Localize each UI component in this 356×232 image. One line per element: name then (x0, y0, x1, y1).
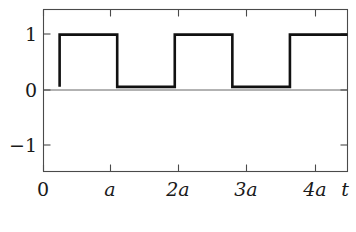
x-axis-label: t (341, 178, 349, 200)
x-tick-label-4a: 4a (302, 178, 326, 200)
square-wave-plot: 1 0 −1 0 a 2a 3a 4a t (0, 0, 356, 232)
y-axis-ticks-mirror (341, 34, 348, 145)
y-tick-label-1: 1 (25, 23, 37, 45)
y-tick-label-minus-1: −1 (9, 134, 37, 156)
y-axis-ticks (44, 34, 51, 145)
x-tick-label-0: 0 (37, 178, 49, 200)
x-tick-label-a: a (104, 178, 115, 200)
y-tick-label-0: 0 (25, 79, 37, 101)
square-wave-curve (60, 35, 348, 87)
figure-container: 1 0 −1 0 a 2a 3a 4a t (0, 0, 356, 232)
x-axis-ticks-mirror (44, 10, 316, 17)
x-tick-label-2a: 2a (165, 178, 189, 200)
x-tick-label-3a: 3a (234, 178, 257, 200)
x-axis-ticks (44, 165, 316, 172)
